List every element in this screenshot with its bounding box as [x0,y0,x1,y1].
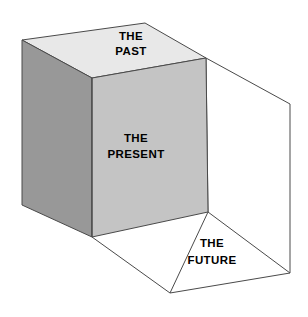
past-label-line1: THE [119,30,143,42]
past-label-line2: PAST [115,45,146,57]
present-label-line2: PRESENT [107,148,164,160]
diagram-canvas: THE PAST THE PRESENT THE FUTURE [0,0,308,317]
present-label-line1: THE [124,132,148,144]
future-label-line1: THE [200,237,224,249]
future-label-line2: FUTURE [187,254,236,266]
time-cube-illustration: THE PAST THE PRESENT THE FUTURE [0,0,308,317]
